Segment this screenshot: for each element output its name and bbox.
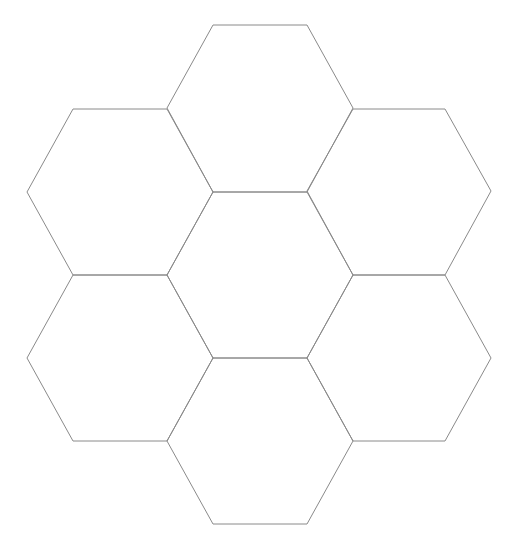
hexagon-lower-right bbox=[307, 275, 491, 441]
hexagon-center bbox=[167, 192, 353, 358]
hexagon-diagram bbox=[0, 0, 516, 552]
hexagon-lower-left bbox=[27, 275, 213, 441]
hexagon-top bbox=[167, 25, 353, 192]
hexagon-upper-right bbox=[307, 109, 491, 275]
hexagon-upper-left bbox=[27, 109, 213, 275]
hexagon-bottom bbox=[167, 358, 353, 524]
